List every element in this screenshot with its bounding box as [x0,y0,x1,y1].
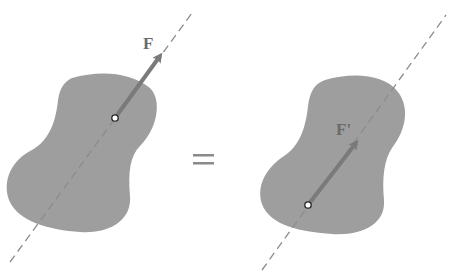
diagram-canvas [0,0,451,277]
force-label-F: F [143,35,153,52]
rigid-body-right [260,76,405,235]
right-panel [260,15,446,270]
rigid-body-left [7,73,157,232]
equals-sign [193,154,214,165]
force-label-F-prime: F' [336,121,351,138]
left-panel [7,13,192,262]
point-of-application-right [305,202,311,208]
point-of-application-left [112,115,118,121]
